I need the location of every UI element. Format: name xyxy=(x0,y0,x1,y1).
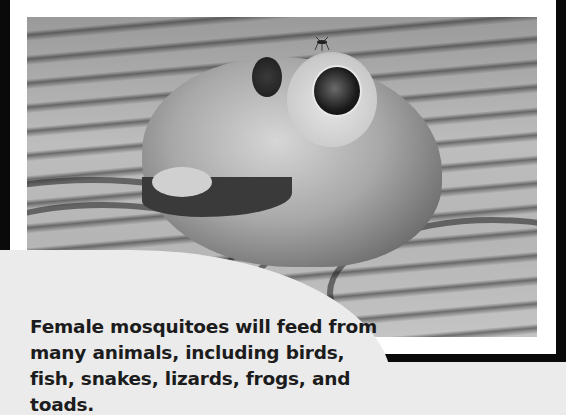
left-edge-bar xyxy=(0,0,10,285)
frog-tongue xyxy=(152,167,212,197)
mosquito-icon xyxy=(312,37,332,51)
frog-eye xyxy=(312,65,362,117)
frog-far-eye xyxy=(252,57,282,97)
photo-caption: Female mosquitoes will feed from many an… xyxy=(30,314,390,415)
